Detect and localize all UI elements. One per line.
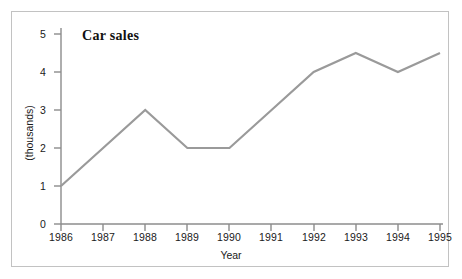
- x-tick-label-1989: 1989: [175, 231, 199, 243]
- y-tick-label-3: 3: [24, 104, 46, 116]
- y-tick-label-5: 5: [24, 28, 46, 40]
- y-tick-label-4: 4: [24, 66, 46, 78]
- x-tick-label-1991: 1991: [259, 231, 283, 243]
- chart-figure: (thousands) Car sales 0 1 2 3 4 5 1986 1…: [0, 0, 462, 279]
- y-tick-label-0: 0: [24, 218, 46, 230]
- x-axis-ticks: [61, 224, 440, 231]
- x-tick-label-1995: 1995: [428, 231, 452, 243]
- x-tick-label-1992: 1992: [302, 231, 326, 243]
- chart-title: Car sales: [82, 28, 139, 44]
- x-tick-label-1987: 1987: [91, 231, 115, 243]
- x-tick-label-1988: 1988: [133, 231, 157, 243]
- x-tick-label-1993: 1993: [344, 231, 368, 243]
- data-series-car-sales: [61, 53, 440, 186]
- x-axis-label: Year: [0, 249, 462, 261]
- x-tick-label-1990: 1990: [217, 231, 241, 243]
- y-axis-ticks: [54, 34, 61, 224]
- x-tick-label-1994: 1994: [386, 231, 410, 243]
- y-tick-label-2: 2: [24, 142, 46, 154]
- y-tick-label-1: 1: [24, 180, 46, 192]
- x-tick-label-1986: 1986: [49, 231, 73, 243]
